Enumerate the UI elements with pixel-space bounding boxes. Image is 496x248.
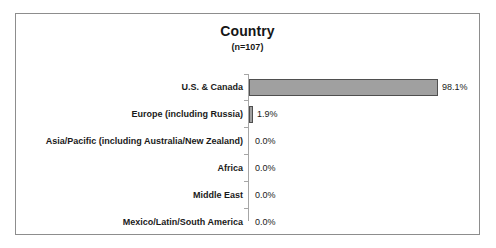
category-label: U.S. & Canada	[181, 74, 243, 101]
axis-tick	[244, 74, 248, 75]
bar-value-label: 1.9%	[257, 101, 278, 128]
chart-title: Country	[16, 23, 479, 39]
category-label: Middle East	[193, 182, 243, 209]
category-label: Europe (including Russia)	[131, 101, 243, 128]
chart-frame: Country (n=107) U.S. & Canada 98.1% Euro…	[15, 13, 480, 235]
bar-row: Asia/Pacific (including Australia/New Ze…	[16, 128, 479, 155]
category-label: Africa	[217, 155, 243, 182]
bar-row: Middle East 0.0%	[16, 182, 479, 209]
bar-row: Mexico/Latin/South America 0.0%	[16, 209, 479, 236]
category-label: Asia/Pacific (including Australia/New Ze…	[46, 128, 243, 155]
bar-row: Africa 0.0%	[16, 155, 479, 182]
chart-subtitle-sample-size: (n=107)	[16, 42, 479, 52]
bar-row: Europe (including Russia) 1.9%	[16, 101, 479, 128]
bar-row: U.S. & Canada 98.1%	[16, 74, 479, 101]
bar-value-label: 0.0%	[255, 155, 276, 182]
plot-area: U.S. & Canada 98.1% Europe (including Ru…	[16, 61, 479, 234]
bar-value-label: 98.1%	[442, 74, 468, 101]
bar-value-label: 0.0%	[255, 128, 276, 155]
bar	[249, 79, 438, 96]
bar-value-label: 0.0%	[255, 209, 276, 236]
bar	[249, 106, 253, 123]
category-label: Mexico/Latin/South America	[123, 209, 243, 236]
bar-value-label: 0.0%	[255, 182, 276, 209]
